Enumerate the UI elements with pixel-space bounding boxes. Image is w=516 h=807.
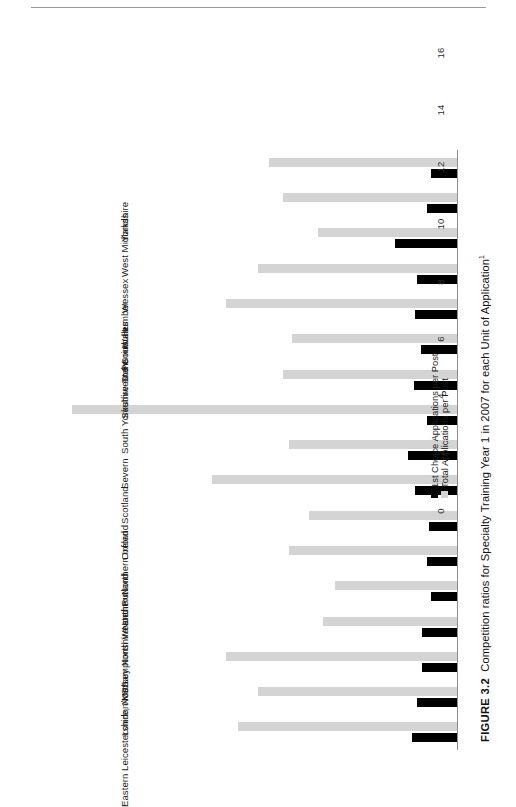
axis-tick-label: 12 bbox=[435, 157, 446, 177]
axis-tick-label: 14 bbox=[435, 100, 446, 120]
legend-label: Total Applications per Post bbox=[440, 378, 449, 488]
category-label: Scotland bbox=[120, 487, 130, 525]
category-label: South Yorkshire and South Humber bbox=[120, 302, 130, 454]
category-label: Severn bbox=[120, 458, 130, 489]
category-label: Leicestershire, Northamptonshire and Rut… bbox=[120, 574, 130, 772]
legend-swatch-total bbox=[441, 491, 448, 498]
chart-legend: 1st Choice Applications per PostTotal Ap… bbox=[430, 498, 460, 698]
category-axis-labels: YorkshireWest MidlandsWessexWalesTrentSo… bbox=[0, 0, 420, 770]
figure-caption: FIGURE 3.2 Competition ratios for Specia… bbox=[478, 255, 492, 742]
axis-tick-label: 10 bbox=[435, 214, 446, 234]
figure-caption-number: FIGURE 3.2 bbox=[479, 678, 491, 742]
axis-tick-label: 6 bbox=[435, 329, 446, 349]
legend-swatch-first_choice bbox=[431, 491, 438, 498]
legend-label: 1st Choice Applications per Post bbox=[430, 354, 439, 488]
category-label: Eastern bbox=[120, 773, 130, 806]
axis-tick-label: 16 bbox=[435, 43, 446, 63]
category-label: West Midlands bbox=[120, 214, 130, 277]
figure-caption-text: Competition ratios for Specialty Trainin… bbox=[479, 259, 491, 672]
figure-caption-footnote-marker: 1 bbox=[478, 255, 485, 259]
axis-tick-label: 8 bbox=[435, 272, 446, 292]
legend-item: 1st Choice Applications per Post bbox=[430, 354, 439, 498]
legend-item: Total Applications per Post bbox=[440, 378, 449, 498]
